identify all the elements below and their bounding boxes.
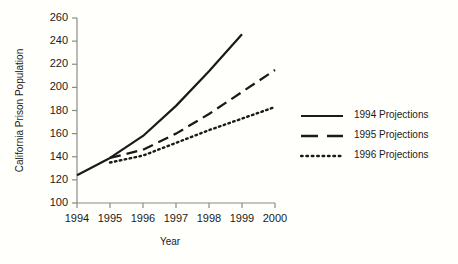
x-axis-title: Year [130, 236, 210, 247]
y-axis-tick-label: 240 [36, 34, 68, 46]
x-axis-tick-label: 1998 [192, 212, 226, 224]
legend-label: 1996 Projections [354, 149, 429, 160]
x-axis-tick-label: 1994 [60, 212, 94, 224]
legend-item: 1994 Projections [300, 104, 452, 124]
y-axis-tick-label: 260 [36, 11, 68, 23]
y-axis-tick-label: 140 [36, 150, 68, 162]
chart-legend: 1994 Projections1995 Projections1996 Pro… [300, 104, 452, 164]
legend-item: 1996 Projections [300, 144, 452, 164]
dotted-line-swatch [300, 148, 344, 160]
chart-figure: 100120140160180200220240260 199419951996… [0, 0, 458, 264]
x-axis-tick-label: 2000 [258, 212, 292, 224]
x-axis-tick-label: 1995 [93, 212, 127, 224]
y-axis-ticks [72, 18, 77, 203]
x-axis-tick-label: 1999 [225, 212, 259, 224]
x-axis-tick-label: 1997 [159, 212, 193, 224]
y-axis-tick-label: 180 [36, 104, 68, 116]
data-series-group [77, 34, 275, 175]
series-line-2 [110, 70, 275, 158]
series-line-1 [77, 34, 242, 175]
y-axis-tick-label: 220 [36, 57, 68, 69]
x-axis-tick-label: 1996 [126, 212, 160, 224]
legend-item: 1995 Projections [300, 124, 452, 144]
x-axis-ticks [77, 203, 275, 208]
y-axis-tick-label: 160 [36, 127, 68, 139]
axis-lines [77, 18, 275, 203]
solid-line-swatch [300, 108, 344, 120]
y-axis-tick-label: 120 [36, 173, 68, 185]
legend-label: 1995 Projections [354, 129, 429, 140]
legend-label: 1994 Projections [354, 109, 429, 120]
y-axis-tick-label: 100 [36, 196, 68, 208]
dashed-line-swatch [300, 128, 344, 140]
y-axis-title: California Prison Population [14, 31, 25, 191]
y-axis-tick-label: 200 [36, 80, 68, 92]
series-line-3 [110, 107, 275, 163]
